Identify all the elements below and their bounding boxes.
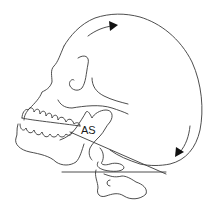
upper-teeth-base — [22, 118, 80, 126]
skull-diagram: AS — [0, 0, 210, 206]
maxilla-line — [58, 100, 128, 114]
mandible — [16, 124, 84, 165]
vertebra-atlas — [97, 148, 124, 171]
upper-teeth — [22, 108, 80, 126]
upper-arrow-head — [109, 21, 118, 31]
zygomatic-arch — [92, 78, 128, 104]
orbit — [69, 56, 88, 90]
face-profile — [24, 46, 64, 120]
lower-teeth — [20, 124, 72, 137]
skull-drawing — [0, 0, 210, 206]
vertebra-axis — [95, 170, 146, 199]
upper-arrow-shaft — [88, 26, 112, 36]
as-label: AS — [81, 124, 96, 136]
vertebral-foramen — [107, 180, 110, 186]
posterior-arrow-shaft — [180, 126, 190, 152]
as-line — [70, 132, 166, 174]
cranium-outline — [64, 14, 202, 165]
